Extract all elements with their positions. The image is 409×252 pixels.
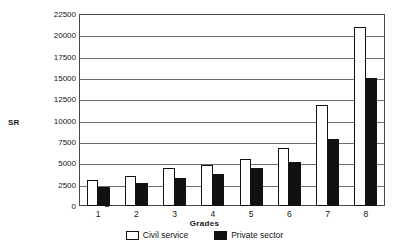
y-tick-label: 0: [34, 202, 76, 211]
y-tick-label: 10000: [34, 116, 76, 125]
y-tick-label: 22500: [34, 10, 76, 19]
x-tick-label: 6: [279, 209, 299, 219]
chart-legend: Civil servicePrivate sector: [0, 230, 409, 240]
x-tick-label: 5: [241, 209, 261, 219]
y-tick-label: 5000: [34, 159, 76, 168]
bar-civil-service-grade-4: [201, 165, 212, 206]
legend-item-private-sector: Private sector: [214, 230, 283, 240]
bar-private-sector-grade-6: [289, 162, 300, 206]
bar-civil-service-grade-5: [240, 159, 251, 206]
bar-civil-service-grade-8: [354, 27, 365, 206]
x-tick-label: 1: [88, 209, 108, 219]
x-tick-label: 2: [126, 209, 146, 219]
y-tick-label: 7500: [34, 138, 76, 147]
bar-private-sector-grade-1: [98, 187, 109, 206]
bar-civil-service-grade-1: [87, 180, 98, 206]
y-tick-label: 15000: [34, 74, 76, 83]
bar-civil-service-grade-7: [316, 105, 327, 206]
x-tick-label: 7: [318, 209, 338, 219]
y-tick-label: 12500: [34, 95, 76, 104]
x-tick-label: 3: [165, 209, 185, 219]
bar-private-sector-grade-7: [328, 139, 339, 206]
legend-swatch-icon: [214, 231, 227, 240]
y-axis-ticks: 0250050007500100001250015000175002000022…: [30, 14, 76, 206]
legend-label: Civil service: [143, 230, 188, 240]
bar-private-sector-grade-4: [213, 174, 224, 206]
x-tick-label: 8: [356, 209, 376, 219]
x-tick-label: 4: [203, 209, 223, 219]
bar-private-sector-grade-3: [175, 178, 186, 206]
bar-chart: SR 0250050007500100001250015000175002000…: [0, 0, 409, 252]
bar-civil-service-grade-2: [125, 176, 136, 206]
legend-swatch-icon: [126, 231, 139, 240]
y-tick-label: 17500: [34, 52, 76, 61]
y-tick-label: 20000: [34, 31, 76, 40]
x-axis-title: Grades: [0, 219, 409, 228]
y-tick-label: 2500: [34, 180, 76, 189]
bar-private-sector-grade-5: [251, 168, 262, 206]
bar-private-sector-grade-8: [366, 78, 377, 206]
bar-private-sector-grade-2: [136, 183, 147, 206]
legend-label: Private sector: [231, 230, 283, 240]
legend-item-civil-service: Civil service: [126, 230, 188, 240]
bars-layer: [79, 14, 385, 206]
bar-civil-service-grade-3: [163, 168, 174, 206]
bar-civil-service-grade-6: [278, 148, 289, 206]
y-tick-mark: [105, 206, 109, 207]
